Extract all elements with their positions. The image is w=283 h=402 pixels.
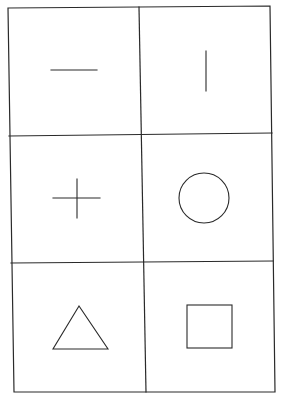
cell-triangle: Triangle	[53, 306, 108, 349]
row-divider-1	[9, 133, 272, 136]
figure-grid-diagram: Grid of six simple figures Horizontal li…	[0, 0, 283, 402]
square-icon	[187, 305, 232, 348]
diagram-canvas: Horizontal line Vertical line Plus sign …	[0, 0, 283, 402]
triangle-icon	[53, 306, 108, 349]
circle-icon	[179, 173, 229, 223]
outer-frame	[8, 6, 275, 392]
column-divider	[139, 7, 146, 392]
cell-square: Square	[187, 305, 232, 348]
row-divider-2	[11, 261, 273, 263]
cell-circle: Circle	[179, 173, 229, 223]
cell-plus-sign: Plus sign	[53, 179, 100, 218]
